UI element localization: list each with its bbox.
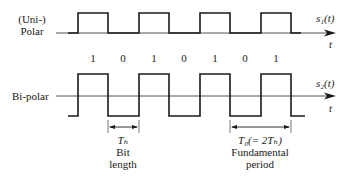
bipolar-waveform (68, 74, 305, 116)
t0-symbol: T₀(= 2Tₕ) (220, 134, 300, 146)
bit-0: 1 (87, 52, 99, 64)
bit-2: 1 (148, 52, 160, 64)
bit-4: 1 (209, 52, 221, 64)
bit-5: 0 (239, 52, 251, 64)
unipolar-waveform (68, 13, 301, 33)
s1-signal-name: s₁(t) (316, 12, 335, 24)
period-annotation: T₀(= 2Tₕ) Fundamental period (220, 134, 300, 170)
bit-1: 0 (117, 52, 129, 64)
bit-length-annotation: Tₕ Bit length (103, 134, 143, 170)
bit-3: 0 (178, 52, 190, 64)
s2-signal-name: s₂(t) (316, 77, 335, 89)
tb-symbol: Tₕ (103, 134, 143, 146)
bottom-t-label: t (329, 102, 332, 114)
top-t-label: t (329, 38, 332, 50)
unipolar-label: (Uni-) Polar (12, 13, 52, 37)
bipolar-label: Bi-polar (12, 90, 49, 102)
bit-6: 1 (270, 52, 282, 64)
